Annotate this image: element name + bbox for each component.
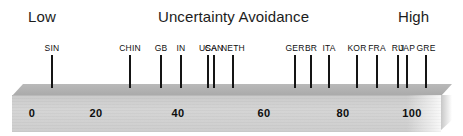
markers-layer: SINCHINGBINUSACANNETHGERBRITAKORFRARUJAP… (0, 0, 463, 136)
country-marker-label: GB (155, 43, 168, 53)
axis-tick-label: 40 (172, 107, 185, 119)
country-marker-label: FRA (368, 43, 386, 53)
axis-tick-label: 100 (402, 107, 421, 119)
country-marker-stem (294, 55, 296, 88)
country-marker-label: KOR (347, 43, 366, 53)
axis-tick-label: 80 (337, 107, 350, 119)
country-marker-stem (207, 55, 209, 88)
country-marker-stem (356, 55, 358, 88)
country-marker-label: CHIN (119, 43, 141, 53)
country-marker-stem (213, 55, 215, 88)
country-marker-label: NETH (221, 43, 245, 53)
country-marker-label: BR (305, 43, 317, 53)
axis-tick-label: 20 (90, 107, 103, 119)
country-marker-stem (129, 55, 131, 88)
country-marker-stem (160, 55, 162, 88)
country-marker-stem (397, 55, 399, 88)
country-marker-label: ITA (322, 43, 335, 53)
country-marker-label: GRE (416, 43, 435, 53)
country-marker-stem (51, 55, 53, 88)
country-marker-stem (180, 55, 182, 88)
country-marker-stem (406, 55, 408, 88)
country-marker-label: SIN (45, 43, 60, 53)
country-marker-stem (328, 55, 330, 88)
country-marker-stem (232, 55, 234, 88)
axis-tick-label: 60 (258, 107, 271, 119)
country-marker-stem (310, 55, 312, 88)
country-marker-label: GER (285, 43, 304, 53)
country-marker-label: IN (177, 43, 186, 53)
country-marker-stem (425, 55, 427, 88)
country-marker-stem (376, 55, 378, 88)
country-marker-label: JAP (399, 43, 415, 53)
uncertainty-avoidance-scale-figure: Low Uncertainty Avoidance High SINCHINGB… (0, 0, 463, 136)
axis-tick-label: 0 (29, 107, 35, 119)
